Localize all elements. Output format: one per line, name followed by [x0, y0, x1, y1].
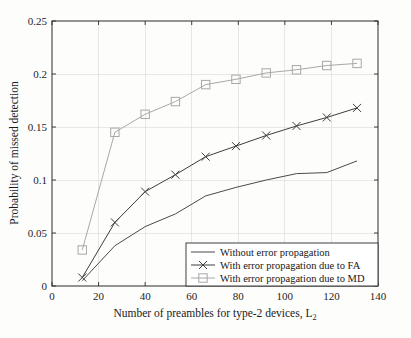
x-tick-label: 140	[370, 290, 387, 302]
data-point	[111, 218, 119, 226]
x-tick-label: 20	[93, 290, 105, 302]
chart-plot-svg: 020406080100120140 00.050.10.150.20.25 N…	[0, 0, 411, 338]
x-tick-label: 100	[277, 290, 294, 302]
x-tick-label: 0	[49, 290, 55, 302]
data-point	[202, 153, 210, 161]
y-tick-label: 0.2	[33, 68, 47, 80]
legend-label: With error propagation due to MD	[220, 273, 365, 284]
y-tick-label: 0.15	[28, 121, 48, 133]
series-2	[78, 59, 361, 254]
x-tick-label: 40	[140, 290, 152, 302]
y-tick-label: 0.25	[28, 15, 48, 27]
y-tick-label: 0.1	[33, 174, 47, 186]
data-point	[171, 171, 179, 179]
legend-label: With error propagation due to FA	[220, 260, 361, 271]
series-line	[82, 63, 357, 250]
data-point	[262, 131, 270, 139]
data-point	[232, 142, 240, 150]
x-axis-tick-labels: 020406080100120140	[49, 290, 387, 302]
legend-label: Without error propagation	[220, 247, 331, 258]
x-tick-label: 60	[186, 290, 198, 302]
y-tick-label: 0	[42, 280, 48, 292]
x-axis-title: Number of preambles for type-2 devices, …	[114, 307, 317, 322]
chart-legend[interactable]: Without error propagationWith error prop…	[186, 243, 378, 286]
y-axis-title: Probability of missed detection	[8, 81, 21, 225]
data-point	[353, 104, 361, 112]
chart-figure: 020406080100120140 00.050.10.150.20.25 N…	[0, 0, 411, 338]
y-tick-label: 0.05	[28, 227, 48, 239]
x-tick-label: 80	[233, 290, 245, 302]
x-tick-label: 120	[323, 290, 340, 302]
y-axis-tick-labels: 00.050.10.150.20.25	[28, 15, 48, 292]
data-point	[293, 122, 301, 130]
data-point	[323, 113, 331, 121]
